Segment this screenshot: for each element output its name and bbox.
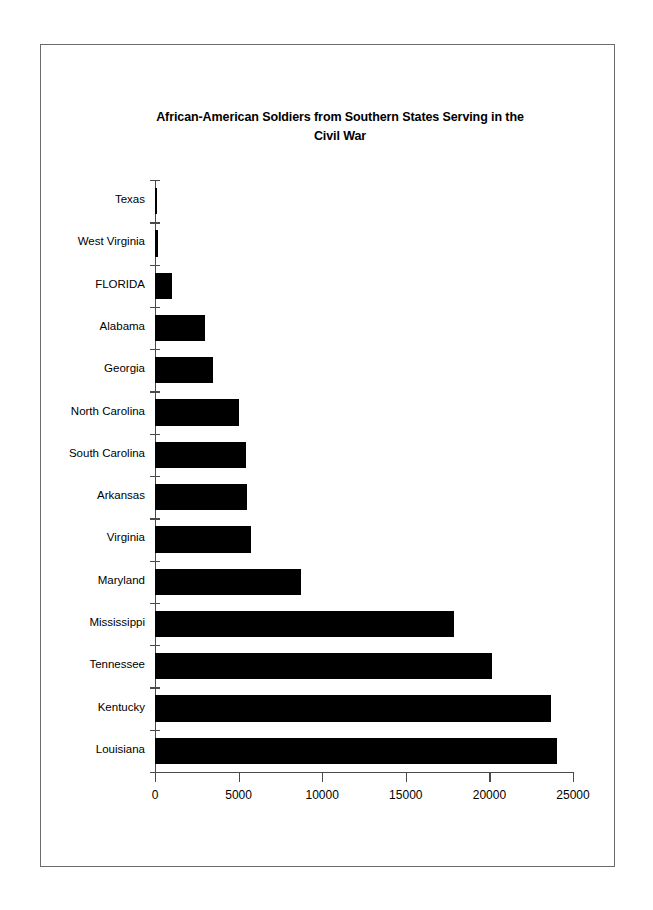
category-label: Louisiana (0, 743, 145, 755)
bar (155, 569, 301, 595)
category-axis-tick (150, 222, 160, 223)
category-label: Maryland (0, 574, 145, 586)
category-label: Arkansas (0, 489, 145, 501)
x-axis-tick (239, 772, 240, 782)
bar (155, 188, 157, 214)
x-axis-tick-label: 25000 (528, 788, 618, 802)
category-axis-tick (150, 730, 160, 731)
bar (155, 738, 557, 764)
bar (155, 230, 158, 256)
x-axis-tick-label: 20000 (444, 788, 534, 802)
x-axis-tick-label: 15000 (361, 788, 451, 802)
bar (155, 399, 239, 425)
category-axis-tick (150, 349, 160, 350)
category-axis-tick (150, 772, 160, 773)
category-label: FLORIDA (0, 278, 145, 290)
bar (155, 442, 246, 468)
category-axis-tick (150, 561, 160, 562)
category-axis-tick (150, 265, 160, 266)
bar (155, 357, 213, 383)
category-label: Texas (0, 193, 145, 205)
x-axis-tick (573, 772, 574, 782)
category-axis-tick (150, 180, 160, 181)
bar (155, 273, 172, 299)
category-label: Virginia (0, 531, 145, 543)
bar (155, 653, 492, 679)
chart-title-line-2: Civil War (314, 129, 366, 143)
chart-title: African-American Soldiers from Southern … (110, 108, 570, 146)
bar (155, 315, 205, 341)
category-axis-tick (150, 434, 160, 435)
category-axis-tick (150, 307, 160, 308)
bar (155, 611, 454, 637)
category-axis-tick (150, 391, 160, 392)
x-axis-tick-label: 0 (110, 788, 200, 802)
category-label: Georgia (0, 362, 145, 374)
category-label: North Carolina (0, 405, 145, 417)
x-axis-tick (322, 772, 323, 782)
category-label: Kentucky (0, 701, 145, 713)
x-axis-tick-label: 10000 (277, 788, 367, 802)
value-axis-line (155, 772, 574, 773)
category-axis-tick (150, 518, 160, 519)
category-axis-tick (150, 603, 160, 604)
category-label: Mississippi (0, 616, 145, 628)
x-axis-tick (489, 772, 490, 782)
chart-title-line-1: African-American Soldiers from Southern … (156, 110, 524, 124)
category-label: Alabama (0, 320, 145, 332)
bar (155, 695, 551, 721)
category-label: West Virginia (0, 235, 145, 247)
chart-page: African-American Soldiers from Southern … (0, 0, 653, 910)
category-axis-tick (150, 645, 160, 646)
x-axis-tick (406, 772, 407, 782)
x-axis-tick-label: 5000 (194, 788, 284, 802)
category-label: South Carolina (0, 447, 145, 459)
category-axis-tick (150, 687, 160, 688)
bar (155, 526, 251, 552)
plot-area (155, 180, 573, 772)
bar (155, 484, 247, 510)
x-axis-tick (155, 772, 156, 782)
category-label: Tennessee (0, 658, 145, 670)
category-axis-tick (150, 476, 160, 477)
